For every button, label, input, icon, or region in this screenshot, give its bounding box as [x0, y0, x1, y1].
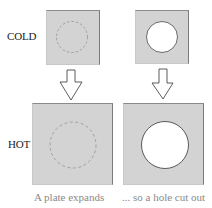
cold-hole — [147, 22, 178, 53]
down-arrow-left-icon — [60, 70, 82, 100]
down-arrow-right-icon — [152, 69, 173, 99]
hot-hole — [142, 122, 189, 169]
caption-left: A plate expands — [34, 191, 104, 203]
hot-dashed-circle — [50, 122, 96, 168]
caption-right: ... so a hole cut out — [122, 191, 205, 203]
cold-dashed-circle — [57, 22, 88, 53]
diagram-overlay — [0, 0, 212, 208]
